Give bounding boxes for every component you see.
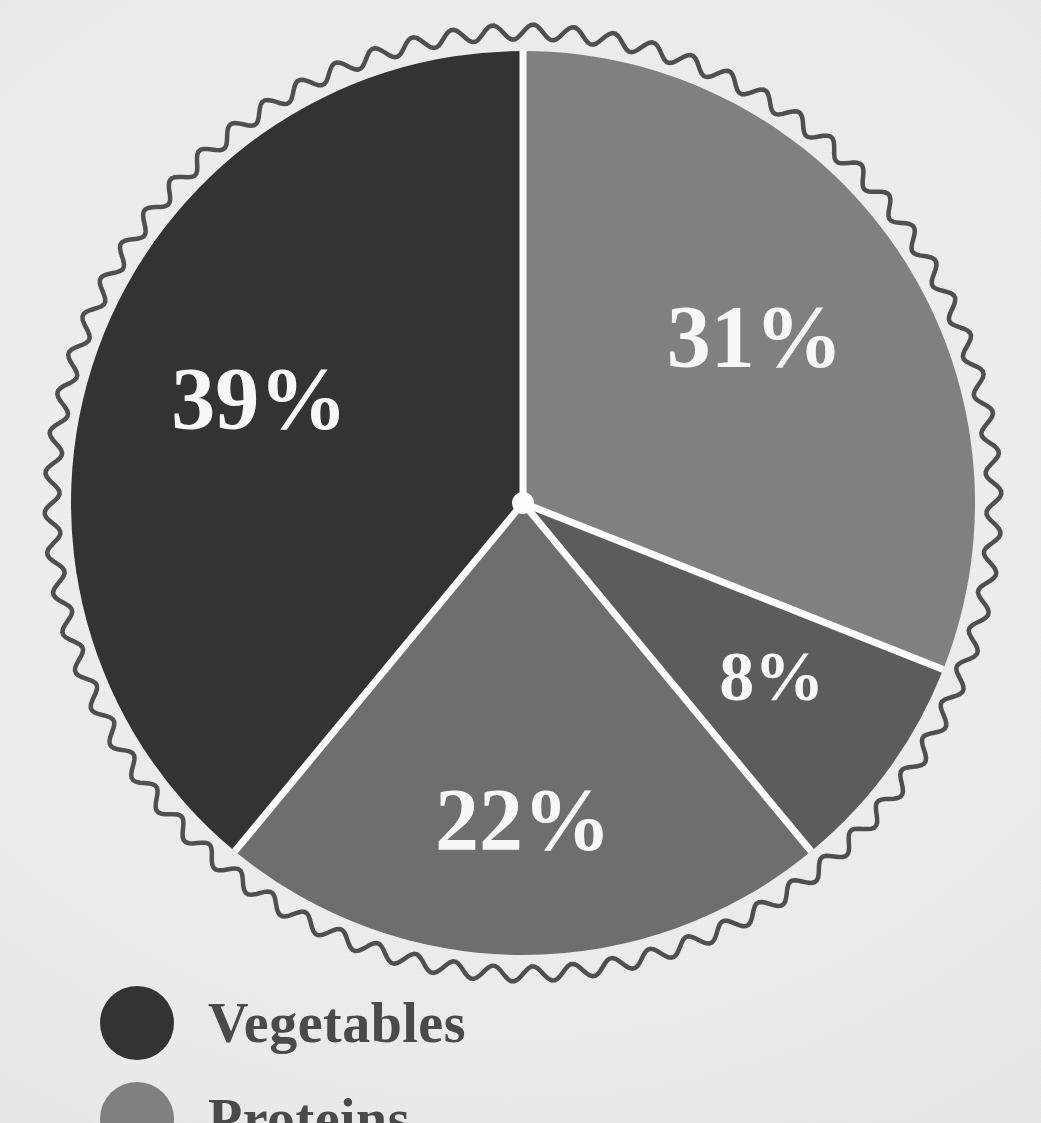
slice-label-vegetables: 39%	[171, 350, 347, 447]
pie-center-dot	[512, 492, 534, 514]
legend-dot-icon	[100, 986, 174, 1060]
legend-dot-icon	[100, 1082, 174, 1123]
legend-item-vegetables[interactable]: Vegetables	[100, 975, 660, 1071]
slice-label-proteins: 31%	[667, 288, 843, 385]
pie-chart: 39% 31% 22% 8%	[0, 0, 1041, 1010]
legend-item-proteins[interactable]: Proteins	[100, 1071, 660, 1123]
slice-label-fruits: 8%	[719, 638, 824, 715]
pie-chart-svg: 39% 31% 22% 8%	[0, 0, 1041, 1010]
legend-label-vegetables: Vegetables	[208, 991, 466, 1055]
chart-legend: Vegetables Proteins	[100, 975, 660, 1123]
slice-label-grains: 22%	[435, 771, 611, 868]
legend-label-proteins: Proteins	[208, 1087, 410, 1123]
